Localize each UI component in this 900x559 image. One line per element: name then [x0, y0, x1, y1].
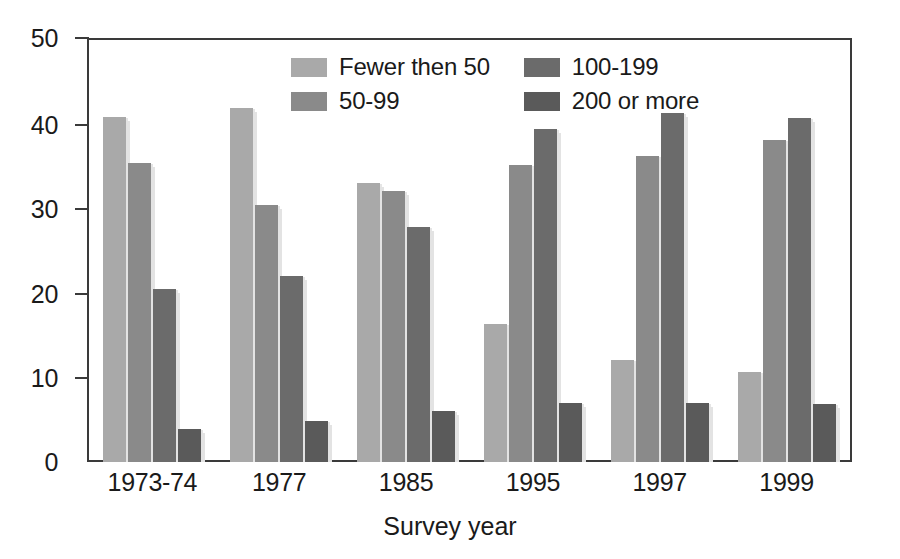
legend-item-100-199: 100-199 — [524, 53, 699, 81]
legend: Fewer then 50 100-199 50-99 200 or more — [291, 53, 699, 115]
bar-1999-50-99 — [763, 140, 786, 462]
legend-label-50-99: 50-99 — [339, 87, 399, 115]
bar-1985-fewer-then-50 — [357, 183, 380, 462]
x-tick-label-1995: 1995 — [470, 468, 596, 497]
bar-1999-fewer-then-50 — [738, 372, 761, 462]
bar-1973-74-200-or-more — [178, 429, 201, 462]
bar-slot — [178, 40, 201, 462]
y-tick-label-10: 10 — [31, 364, 58, 393]
bar-1995-200-or-more — [559, 403, 582, 462]
legend-swatch-icon-200-or-more — [524, 92, 560, 111]
bar-1997-200-or-more — [686, 403, 709, 462]
bar-slot — [738, 40, 761, 462]
bar-1977-fewer-then-50 — [230, 108, 253, 462]
y-tick-label-40: 40 — [31, 111, 58, 140]
x-tick-label-1985: 1985 — [343, 468, 469, 497]
bar-1997-fewer-then-50 — [611, 360, 634, 462]
legend-label-fewer-then-50: Fewer then 50 — [339, 53, 490, 81]
bar-1973-74-100-199 — [153, 289, 176, 462]
bar-1995-50-99 — [509, 165, 532, 462]
x-axis-title: Survey year — [0, 512, 900, 541]
bar-chart: 50 40 30 20 10 0 Fewer then 50 100-199 5… — [0, 0, 900, 559]
y-axis: 50 40 30 20 10 0 — [0, 0, 80, 559]
bar-slot — [255, 40, 278, 462]
bar-1999-200-or-more — [813, 404, 836, 462]
legend-label-100-199: 100-199 — [572, 53, 659, 81]
legend-item-50-99: 50-99 — [291, 87, 490, 115]
bar-1997-100-199 — [661, 113, 684, 462]
bar-1995-100-199 — [534, 129, 557, 462]
bar-1985-50-99 — [382, 191, 405, 462]
bar-1985-200-or-more — [432, 411, 455, 462]
x-tick-label-1997: 1997 — [597, 468, 723, 497]
bar-1973-74-50-99 — [128, 163, 151, 462]
bar-1973-74-fewer-then-50 — [103, 117, 126, 462]
bar-1999-100-199 — [788, 118, 811, 462]
legend-swatch-icon-fewer-then-50 — [291, 58, 327, 77]
x-tick-label-1977: 1977 — [216, 468, 342, 497]
bar-1997-50-99 — [636, 156, 659, 462]
x-axis: 1973-74 1977 1985 1995 1997 1999 — [89, 468, 850, 502]
legend-swatch-icon-100-199 — [524, 58, 560, 77]
bar-slot — [103, 40, 126, 462]
legend-label-200-or-more: 200 or more — [572, 87, 699, 115]
bar-1995-fewer-then-50 — [484, 324, 507, 462]
bar-slot — [153, 40, 176, 462]
bar-1985-100-199 — [407, 227, 430, 462]
legend-item-200-or-more: 200 or more — [524, 87, 699, 115]
x-tick-label-1973-74: 1973-74 — [89, 468, 215, 497]
legend-item-fewer-then-50: Fewer then 50 — [291, 53, 490, 81]
bar-slot — [128, 40, 151, 462]
x-tick-label-1999: 1999 — [724, 468, 850, 497]
y-tick-label-20: 20 — [31, 280, 58, 309]
bar-slot — [230, 40, 253, 462]
bar-slot — [763, 40, 786, 462]
bar-1977-50-99 — [255, 205, 278, 462]
bar-slot — [813, 40, 836, 462]
bar-1977-200-or-more — [305, 421, 328, 462]
y-tick-label-50: 50 — [31, 24, 58, 53]
y-tick-label-0: 0 — [44, 448, 58, 477]
bar-group-1999 — [738, 40, 836, 462]
bar-slot — [788, 40, 811, 462]
bar-1977-100-199 — [280, 276, 303, 462]
y-tick-label-30: 30 — [31, 195, 58, 224]
legend-swatch-icon-50-99 — [291, 92, 327, 111]
bar-group-1973-74 — [103, 40, 201, 462]
